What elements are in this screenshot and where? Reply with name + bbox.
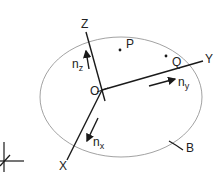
point-p-label: P <box>126 37 134 51</box>
body-leader-curve <box>169 141 183 150</box>
body-label: B <box>186 141 194 155</box>
y-axis-label: Y <box>205 52 213 66</box>
n-y-label: ny <box>178 75 190 91</box>
n-y-arrow <box>149 79 175 86</box>
n-x-subscript: x <box>100 141 105 151</box>
x-axis-line <box>67 90 102 160</box>
point-q-dot <box>165 55 168 58</box>
diagram-canvas: Z Y X O P Q B nz ny nx <box>0 0 223 186</box>
n-z-label: nz <box>72 57 84 73</box>
n-z-arrow <box>86 51 89 69</box>
point-q-label: Q <box>172 55 181 69</box>
point-p-dot <box>119 49 122 52</box>
n-z-subscript: z <box>79 63 84 73</box>
n-x-label: nx <box>93 135 105 151</box>
z-axis-label: Z <box>81 17 88 31</box>
n-y-subscript: y <box>185 81 190 91</box>
x-axis-label: X <box>59 159 67 173</box>
origin-label: O <box>90 84 99 98</box>
reference-frame-icon <box>0 142 24 172</box>
